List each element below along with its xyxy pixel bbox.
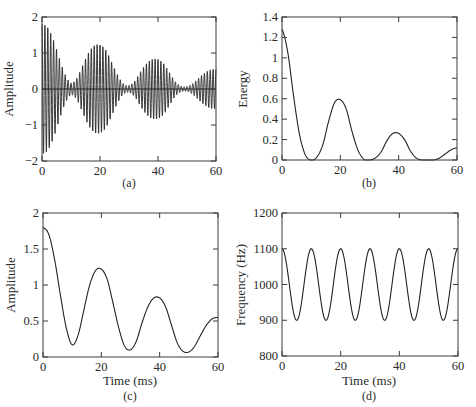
x-tick-label: 40 [392, 163, 405, 177]
y-tick-label: 0 [32, 82, 38, 96]
x-tick-label: 60 [451, 163, 464, 177]
y-tick-label: 1.4 [262, 10, 278, 24]
y-tick-label: −2 [25, 154, 38, 168]
plot-area-c: 020406000.511.52 [23, 206, 224, 374]
y-tick-label: −1 [25, 118, 38, 132]
y-tick-label: 2 [32, 10, 38, 24]
y-tick-label: 0.2 [262, 133, 278, 147]
y-tick-label: 800 [259, 349, 278, 363]
y-tick-label: 1.5 [23, 242, 39, 256]
x-tick-label: 0 [279, 163, 285, 177]
x-tick-label: 0 [39, 164, 45, 178]
axes-frame-b [282, 17, 457, 160]
y-axis-label-a: Amplitude [1, 61, 16, 117]
y-tick-label: 0.6 [262, 92, 278, 106]
plot-area-b: 020406000.20.40.60.811.21.4 [262, 10, 463, 177]
x-tick-label: 20 [334, 359, 347, 373]
x-tick-label: 0 [279, 359, 285, 373]
x-tick-label: 60 [212, 360, 225, 374]
data-line-b [282, 29, 457, 160]
x-tick-label: 20 [334, 163, 347, 177]
y-axis-label-c: Amplitude [3, 257, 18, 313]
plot-area-d: 0204060800900100011001200 [253, 206, 464, 373]
y-tick-label: 0.4 [262, 112, 278, 126]
y-tick-label: 2 [33, 206, 39, 220]
panel-a-amplitude-waveform: 0204060−2−1012 Amplitude (a) [1, 10, 222, 190]
y-tick-label: 0.5 [23, 314, 39, 328]
x-tick-label: 40 [153, 360, 166, 374]
y-tick-label: 1000 [253, 278, 278, 292]
caption-b: (b) [362, 176, 376, 190]
y-tick-label: 1 [272, 51, 278, 65]
data-line-c [43, 227, 218, 352]
panel-d-frequency: 0204060800900100011001200 Frequency (Hz)… [233, 206, 464, 403]
y-tick-label: 0 [272, 153, 278, 167]
y-tick-label: 1.2 [262, 30, 278, 44]
y-tick-label: 1 [32, 46, 38, 60]
y-tick-label: 900 [259, 313, 278, 327]
y-tick-label: 0 [33, 350, 39, 364]
x-tick-label: 40 [152, 164, 165, 178]
x-tick-label: 20 [95, 360, 108, 374]
caption-c: (c) [123, 389, 136, 403]
x-tick-label: 40 [393, 359, 406, 373]
y-axis-label-b: Energy [235, 70, 250, 108]
y-tick-label: 0.8 [262, 71, 278, 85]
figure: 0204060−2−1012 Amplitude (a) 020406000.2… [0, 0, 476, 407]
x-axis-label-d: Time (ms) [342, 373, 396, 388]
y-tick-label: 1 [33, 278, 39, 292]
y-tick-label: 1100 [253, 242, 278, 256]
y-axis-label-d: Frequency (Hz) [233, 244, 248, 326]
caption-d: (d) [362, 389, 376, 403]
plot-area-a: 0204060−2−1012 [25, 10, 223, 178]
axes-frame-d [282, 213, 458, 356]
panel-c-amplitude-envelope: 020406000.511.52 Amplitude Time (ms) (c) [3, 206, 224, 403]
data-line-d [282, 249, 458, 321]
x-tick-label: 60 [452, 359, 465, 373]
x-tick-label: 0 [40, 360, 46, 374]
x-tick-label: 20 [94, 164, 107, 178]
y-tick-label: 1200 [253, 206, 278, 220]
caption-a: (a) [122, 176, 135, 190]
x-axis-label-c: Time (ms) [103, 373, 157, 388]
axes-frame-c [43, 213, 218, 357]
x-tick-label: 60 [210, 164, 223, 178]
panel-b-energy: 020406000.20.40.60.811.21.4 Energy (b) [235, 10, 463, 190]
